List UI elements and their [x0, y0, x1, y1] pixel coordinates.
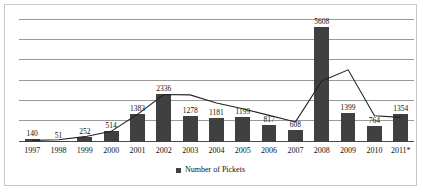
bar[interactable]: 1383	[130, 114, 145, 142]
x-axis-labels: 1997199819992000200120022003200420052006…	[19, 144, 414, 158]
bar-value-label: 1399	[341, 104, 356, 112]
x-axis-tick-label: 2010	[361, 144, 387, 158]
x-axis-tick-label: 1999	[72, 144, 98, 158]
x-axis-tick-label: 2001	[124, 144, 150, 158]
bar-slot: 1199	[230, 19, 256, 142]
bar-slot: 1278	[177, 19, 203, 142]
bar-slot: 514	[98, 19, 124, 142]
bar[interactable]: 1181	[209, 118, 224, 142]
bar-slot: 1383	[124, 19, 150, 142]
bar-slot: 1181	[203, 19, 229, 142]
legend-label: Number of Pickets	[185, 165, 245, 175]
bar-value-label: 764	[369, 117, 380, 125]
x-axis-tick-label: 2002	[151, 144, 177, 158]
bar-series: 1405125251413832336127811811199817608560…	[19, 19, 414, 142]
bar-value-label: 1199	[235, 108, 250, 116]
bar[interactable]: 51	[51, 141, 66, 142]
bar-value-label: 1383	[130, 105, 145, 113]
bar-slot: 817	[256, 19, 282, 142]
bar[interactable]: 2336	[156, 94, 171, 142]
bar[interactable]: 140	[25, 139, 40, 142]
bar-value-label: 1181	[209, 109, 224, 117]
plot-area: 1405125251413832336127811811199817608560…	[19, 19, 414, 142]
x-axis-tick-label: 2007	[282, 144, 308, 158]
chart-frame: 1405125251413832336127811811199817608560…	[4, 4, 417, 186]
x-axis-tick-label: 2004	[203, 144, 229, 158]
x-axis-tick-label: 2003	[177, 144, 203, 158]
chart-legend: Number of Pickets	[5, 165, 416, 175]
bar[interactable]: 608	[288, 130, 303, 142]
bar[interactable]: 764	[367, 126, 382, 142]
bar-value-label: 817	[263, 116, 274, 124]
bar-value-label: 608	[290, 121, 301, 129]
bar-slot: 51	[45, 19, 71, 142]
bar-slot: 140	[19, 19, 45, 142]
bar-value-label: 252	[79, 128, 90, 136]
x-axis-tick-label: 1998	[45, 144, 71, 158]
bar-slot: 2336	[151, 19, 177, 142]
x-axis-tick-label: 2009	[335, 144, 361, 158]
bar[interactable]: 1199	[235, 117, 250, 142]
bar[interactable]: 1278	[183, 116, 198, 142]
bar-value-label: 2336	[156, 85, 171, 93]
bar[interactable]: 252	[77, 137, 92, 142]
bar-slot: 1354	[388, 19, 414, 142]
bar-value-label: 514	[106, 122, 117, 130]
bar-slot: 5608	[309, 19, 335, 142]
x-axis-tick-label: 2006	[256, 144, 282, 158]
bar[interactable]: 5608	[314, 27, 329, 142]
bar-value-label: 5608	[314, 18, 329, 26]
x-axis-tick-label: 2011*	[388, 144, 414, 158]
x-axis-tick-label: 2005	[230, 144, 256, 158]
bar-value-label: 1278	[183, 107, 198, 115]
bar[interactable]: 1399	[341, 113, 356, 142]
bar-slot: 608	[282, 19, 308, 142]
bar-slot: 764	[361, 19, 387, 142]
x-axis-tick-label: 1997	[19, 144, 45, 158]
bar-slot: 252	[72, 19, 98, 142]
bar-value-label: 140	[27, 130, 38, 138]
bar-value-label: 51	[55, 132, 63, 140]
bar[interactable]: 1354	[393, 114, 408, 142]
x-axis-tick-label: 2008	[309, 144, 335, 158]
bar-value-label: 1354	[393, 105, 408, 113]
bar[interactable]: 514	[104, 131, 119, 142]
bar-slot: 1399	[335, 19, 361, 142]
bar[interactable]: 817	[262, 125, 277, 142]
x-axis-tick-label: 2000	[98, 144, 124, 158]
square-marker-icon	[176, 168, 181, 173]
